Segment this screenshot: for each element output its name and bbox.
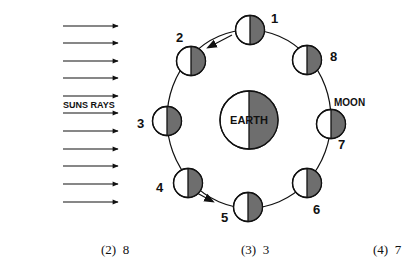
moon-2-label: 2 <box>176 30 183 45</box>
moon-3-label: 3 <box>137 116 144 131</box>
moon-4-label: 4 <box>156 180 164 195</box>
moon-8 <box>293 46 322 75</box>
moon-5 <box>234 193 263 222</box>
earth-label: EARTH <box>230 114 268 126</box>
moon-1 <box>236 16 265 45</box>
moon-phases-diagram: SUNS RAYS EARTH <box>0 0 417 273</box>
orbit-direction-arrow-icon <box>211 35 232 46</box>
moon-1-label: 1 <box>271 11 278 26</box>
answer-choice-3[interactable]: (3) 3 <box>241 242 269 258</box>
moon-3 <box>153 107 182 136</box>
moon-2 <box>177 47 206 76</box>
moon-7 <box>317 110 346 139</box>
moon-6 <box>293 169 322 198</box>
moon-5-label: 5 <box>221 210 228 225</box>
suns-rays-label: SUNS RAYS <box>63 100 115 110</box>
answer-choice-4[interactable]: (4) 7 <box>373 242 401 258</box>
moon-8-label: 8 <box>330 49 337 64</box>
moon-4 <box>174 169 203 198</box>
moon-label: MOON <box>334 97 365 108</box>
sun-rays <box>63 26 118 202</box>
moon-7-label: 7 <box>338 137 345 152</box>
moon-6-label: 6 <box>313 202 320 217</box>
answer-choice-2[interactable]: (2) 8 <box>101 242 129 258</box>
